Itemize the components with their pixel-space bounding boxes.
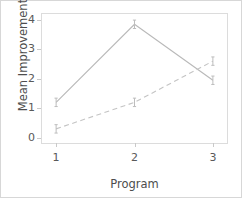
x-axis-title: Program	[41, 177, 228, 191]
x-axis-tick-label: 2	[125, 152, 145, 163]
x-axis-tick-mark	[56, 143, 57, 147]
y-axis-tick-label: 3	[19, 43, 35, 54]
data-point-marker	[133, 98, 136, 106]
interaction-plot-figure: Mean Improvement 01234 123 Program	[0, 0, 242, 198]
plot-area-svg	[42, 14, 227, 143]
y-axis-tick-label: 2	[19, 73, 35, 84]
series-line-dashed-line	[56, 61, 213, 129]
x-axis-tick-mark	[213, 143, 214, 147]
y-axis-tick-label: 1	[19, 102, 35, 113]
y-axis-tick-label: 4	[19, 14, 35, 25]
x-axis-tick-label: 3	[203, 152, 223, 163]
series-line-solid-line	[56, 24, 213, 102]
y-axis-tick-label: 0	[19, 132, 35, 143]
data-point-marker	[55, 98, 58, 106]
plot-panel	[41, 13, 228, 144]
x-axis-tick-label: 1	[46, 152, 66, 163]
x-axis-tick-mark	[135, 143, 136, 147]
data-point-marker	[211, 76, 214, 84]
data-point-marker	[133, 20, 136, 28]
